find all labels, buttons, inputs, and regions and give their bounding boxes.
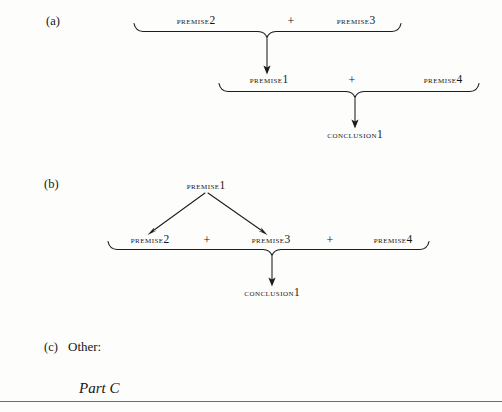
node-b-premise-1-word: PREMISE xyxy=(187,181,220,191)
node-a-premise-1: PREMISE1 xyxy=(250,74,288,86)
node-a-premise-4: PREMISE4 xyxy=(424,74,462,86)
node-a-premise-2: PREMISE2 xyxy=(177,15,215,27)
part-heading: Part C xyxy=(79,381,119,396)
node-b-conclusion-1: CONCLUSION1 xyxy=(244,287,299,299)
section-marker-b: (b) xyxy=(44,178,59,191)
section-marker-a: (a) xyxy=(46,15,60,28)
section-c-other-label: Other: xyxy=(68,340,101,353)
operator-b-plus-1: + xyxy=(204,234,211,246)
arrow-b-premise1-to-premise3-shaft xyxy=(208,193,263,232)
node-a-premise-2-number: 2 xyxy=(209,14,215,26)
node-b-premise-2: PREMISE2 xyxy=(131,234,169,246)
arrow-a-brace1-to-premise1-head xyxy=(263,66,270,75)
node-a-premise-3-word: PREMISE xyxy=(337,16,370,26)
node-a-conclusion-1-word: CONCLUSION xyxy=(327,130,377,140)
node-b-premise-3-word: PREMISE xyxy=(252,235,285,245)
node-b-conclusion-1-number: 1 xyxy=(294,286,300,298)
operator-a-row1-plus: + xyxy=(288,15,295,27)
node-b-premise-3: PREMISE3 xyxy=(252,234,290,246)
section-marker-c: (c) xyxy=(44,341,58,354)
node-b-premise-4: PREMISE4 xyxy=(374,234,412,246)
node-b-premise-1-number: 1 xyxy=(219,179,225,191)
node-a-conclusion-1-number: 1 xyxy=(377,128,383,140)
footer-divider xyxy=(0,401,502,402)
node-b-premise-4-number: 4 xyxy=(406,233,412,245)
operator-a-row2-plus: + xyxy=(349,74,356,86)
node-b-premise-3-number: 3 xyxy=(284,233,290,245)
node-b-conclusion-1-word: CONCLUSION xyxy=(244,288,294,298)
node-a-conclusion-1: CONCLUSION1 xyxy=(327,129,382,141)
arrow-b-premise1-to-premise2-shaft xyxy=(152,193,205,232)
node-b-premise-1: PREMISE1 xyxy=(187,180,225,192)
node-b-premise-4-word: PREMISE xyxy=(374,235,407,245)
arrow-b-brace-to-conclusion-head xyxy=(268,278,275,287)
node-b-premise-2-number: 2 xyxy=(163,233,169,245)
operator-b-plus-2: + xyxy=(327,234,334,246)
node-a-premise-1-word: PREMISE xyxy=(250,75,283,85)
arrow-a-brace2-to-conclusion-head xyxy=(351,120,358,129)
node-a-premise-1-number: 1 xyxy=(282,73,288,85)
node-b-premise-2-word: PREMISE xyxy=(131,235,164,245)
node-a-premise-4-number: 4 xyxy=(456,73,462,85)
node-a-premise-2-word: PREMISE xyxy=(177,16,210,26)
node-a-premise-3-number: 3 xyxy=(369,14,375,26)
node-a-premise-3: PREMISE3 xyxy=(337,15,375,27)
worksheet-page: (a) PREMISE2 + PREMISE3 PREMISE1 + PREMI… xyxy=(0,0,502,412)
node-a-premise-4-word: PREMISE xyxy=(424,75,457,85)
